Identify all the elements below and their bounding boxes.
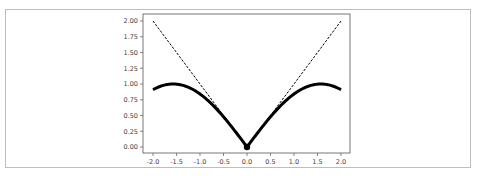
line-chart: -2.0-1.5-1.0-0.50.00.51.01.52.0 0.000.25… <box>0 0 480 176</box>
y-tick-label: 0.50 <box>124 112 138 120</box>
x-tick-label: 1.5 <box>312 158 322 166</box>
y-tick-label: 0.75 <box>124 96 138 104</box>
y-tick-label: 1.00 <box>124 80 138 88</box>
x-tick-label: 0.5 <box>265 158 275 166</box>
x-tick-label: 0.0 <box>242 158 252 166</box>
y-tick-label: 1.25 <box>124 65 138 73</box>
x-tick-label: -1.0 <box>194 158 207 166</box>
y-tick-label: 0.25 <box>124 128 138 136</box>
x-axis-ticks: -2.0-1.5-1.0-0.50.00.51.01.52.0 <box>147 153 347 166</box>
origin-marker <box>244 144 250 150</box>
y-tick-label: 2.00 <box>124 17 138 25</box>
x-tick-label: -1.5 <box>170 158 183 166</box>
y-tick-label: 1.75 <box>124 33 138 41</box>
y-axis-ticks: 0.000.250.500.751.001.251.501.752.00 <box>124 17 143 151</box>
x-tick-label: -2.0 <box>147 158 160 166</box>
x-tick-label: 2.0 <box>336 158 346 166</box>
y-tick-label: 0.00 <box>124 143 138 151</box>
x-tick-label: 1.0 <box>289 158 299 166</box>
y-tick-label: 1.50 <box>124 49 138 57</box>
x-tick-label: -0.5 <box>217 158 230 166</box>
